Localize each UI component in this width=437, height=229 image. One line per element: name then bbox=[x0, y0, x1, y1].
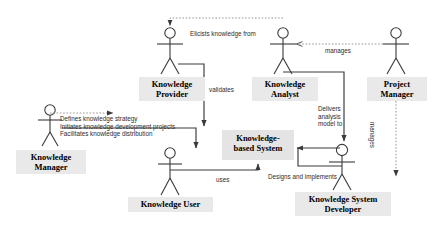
edge-elicits-knowledge-from bbox=[170, 18, 283, 26]
edge-uses bbox=[170, 164, 258, 170]
actor-label-project-manager: Project Manager bbox=[367, 77, 427, 101]
edge-label-knowledge-manager-responsibilities: Defines knowledge strategy Initiates kno… bbox=[60, 115, 175, 138]
edge-designs-and-implements-leg bbox=[298, 148, 342, 166]
usecase-label-knowledge-based-system: Knowledge- based System bbox=[222, 130, 294, 160]
edge-label-designs-and-implements: Designs and implements bbox=[268, 173, 337, 181]
actor-label-knowledge-system-developer: Knowledge System Developer bbox=[295, 192, 391, 216]
actor-label-knowledge-manager: Knowledge Manager bbox=[16, 150, 86, 174]
actor-figure-knowledge-analyst bbox=[270, 28, 296, 74]
actor-label-knowledge-analyst: Knowledge Analyst bbox=[252, 77, 318, 101]
edge-label-validates: validates bbox=[209, 86, 234, 94]
actor-label-knowledge-user: Knowledge User bbox=[128, 197, 213, 212]
actor-figure-knowledge-manager bbox=[38, 105, 62, 146]
actor-figure-knowledge-user bbox=[158, 148, 182, 195]
uml-use-case-diagram: Knowledge Provider Knowledge Analyst Pro… bbox=[0, 0, 437, 229]
actor-label-knowledge-provider: Knowledge Provider bbox=[139, 77, 205, 101]
edge-label-manages-developer: manages bbox=[368, 122, 376, 148]
edge-label-uses: uses bbox=[216, 176, 229, 184]
actor-figure-knowledge-provider bbox=[157, 28, 183, 74]
actor-figure-project-manager bbox=[383, 28, 409, 74]
actor-figure-knowledge-system-developer bbox=[329, 144, 355, 190]
edge-label-manages-analyst: manages bbox=[325, 47, 351, 55]
edge-label-delivers-analysis-model-to: Delivers analysis model to bbox=[318, 105, 342, 128]
edge-label-elicits-knowledge-from: Elicists knowledge from bbox=[190, 30, 256, 38]
